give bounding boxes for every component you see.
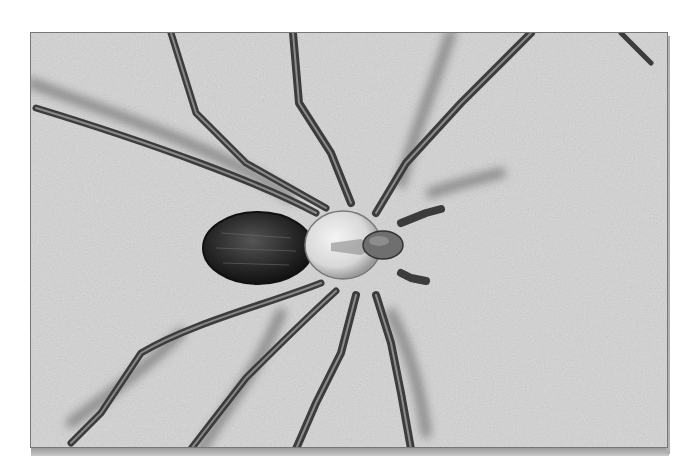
spider-photo <box>30 32 668 448</box>
photo-shadow-bottom <box>31 448 669 456</box>
spider-illustration <box>31 33 668 448</box>
